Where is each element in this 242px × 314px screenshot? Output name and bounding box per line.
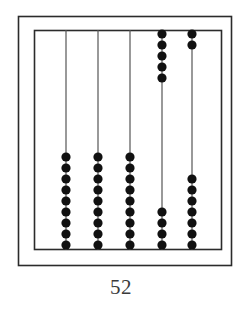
bead[interactable] [157, 62, 166, 71]
bead[interactable] [125, 229, 134, 238]
bead[interactable] [157, 229, 166, 238]
bead[interactable] [61, 174, 70, 183]
bead[interactable] [187, 40, 196, 49]
bead[interactable] [125, 218, 134, 227]
figure-background [0, 0, 242, 314]
bead[interactable] [157, 240, 166, 249]
bead[interactable] [93, 207, 102, 216]
bead[interactable] [93, 185, 102, 194]
bead[interactable] [61, 240, 70, 249]
bead[interactable] [157, 29, 166, 38]
bead[interactable] [187, 229, 196, 238]
bead[interactable] [187, 185, 196, 194]
bead[interactable] [187, 207, 196, 216]
bead[interactable] [93, 152, 102, 161]
bead[interactable] [61, 229, 70, 238]
figure-root: 52 [0, 0, 242, 314]
abacus-diagram [0, 0, 242, 314]
bead[interactable] [93, 229, 102, 238]
figure-caption: 52 [0, 274, 242, 300]
bead[interactable] [157, 40, 166, 49]
bead[interactable] [93, 218, 102, 227]
bead[interactable] [125, 185, 134, 194]
bead[interactable] [93, 196, 102, 205]
bead[interactable] [61, 196, 70, 205]
bead[interactable] [93, 174, 102, 183]
bead[interactable] [61, 185, 70, 194]
bead[interactable] [157, 51, 166, 60]
bead[interactable] [93, 163, 102, 172]
bead[interactable] [61, 218, 70, 227]
bead[interactable] [61, 152, 70, 161]
bead[interactable] [187, 240, 196, 249]
bead[interactable] [187, 196, 196, 205]
bead[interactable] [157, 207, 166, 216]
bead[interactable] [157, 73, 166, 82]
bead[interactable] [125, 174, 134, 183]
bead[interactable] [93, 240, 102, 249]
bead[interactable] [61, 163, 70, 172]
bead[interactable] [125, 163, 134, 172]
bead[interactable] [125, 196, 134, 205]
bead[interactable] [125, 240, 134, 249]
bead[interactable] [187, 174, 196, 183]
bead[interactable] [157, 218, 166, 227]
bead[interactable] [125, 152, 134, 161]
bead[interactable] [187, 218, 196, 227]
bead[interactable] [187, 29, 196, 38]
bead[interactable] [125, 207, 134, 216]
bead[interactable] [61, 207, 70, 216]
